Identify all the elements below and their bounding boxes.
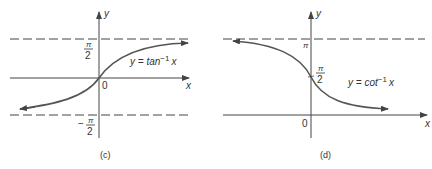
arctan-curve (20, 43, 188, 109)
panel-d-arccot: y x 0 π π 2 y = cot−1x (d) (223, 8, 431, 160)
svg-text:π: π (86, 40, 92, 49)
x-axis-label: x (424, 118, 431, 129)
origin-label: 0 (102, 80, 108, 91)
svg-text:−: − (78, 118, 84, 129)
y-axis-label: y (315, 8, 322, 19)
svg-text:2: 2 (85, 50, 91, 61)
caption-d: (d) (320, 150, 331, 160)
upper-asymptote-label: π 2 (84, 40, 93, 61)
function-label-arctan: y = tan−1x (129, 54, 177, 67)
lower-asymptote-label: − π 2 (78, 116, 95, 137)
svg-text:2: 2 (317, 74, 323, 85)
panel-c-arctan: y x 0 π 2 − π 2 y = tan−1x (c) (10, 8, 192, 160)
x-axis-label: x (185, 80, 192, 91)
function-label-arccot: y = cot−1x (347, 75, 395, 88)
svg-text:2: 2 (87, 126, 93, 137)
svg-text:π: π (88, 116, 94, 125)
svg-text:π: π (318, 64, 324, 73)
upper-asymptote-label: π (303, 41, 309, 50)
y-axis-label: y (103, 8, 110, 19)
origin-label: 0 (302, 118, 308, 129)
caption-c: (c) (100, 150, 111, 160)
arctan-curve-left-arrow (20, 107, 35, 109)
arccot-curve (233, 41, 311, 77)
figure: y x 0 π 2 − π 2 y = tan−1x (c) y x 0 π π (0, 0, 432, 169)
